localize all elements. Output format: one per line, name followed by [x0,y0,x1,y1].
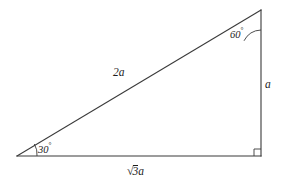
angle-label-30: 30° [38,142,52,155]
radicand-value: 3 [133,165,139,178]
hypotenuse-label: 2a [113,67,125,79]
hypotenuse-line [17,10,261,156]
base-leg-label: √3 a [127,165,144,178]
base-leg-variable: a [138,165,144,177]
radical-group: √3 [127,165,138,178]
degree-symbol-icon: ° [241,26,244,35]
angle-label-60: 60° [230,27,244,40]
angle-arc-60 [244,30,261,41]
right-angle-marker [254,149,261,156]
degree-symbol-icon: ° [49,141,52,150]
angle-30-value: 30 [38,144,49,155]
angle-60-value: 60 [230,29,241,40]
triangle-figure: 2a a √3 a 30° 60° [0,0,282,192]
vertical-leg-label: a [265,79,271,91]
